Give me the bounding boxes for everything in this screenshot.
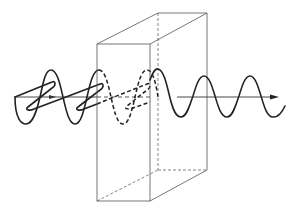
- propagation-axis: [15, 95, 150, 99]
- diagram-canvas: [0, 0, 293, 213]
- crystal-front-face: [97, 44, 150, 201]
- polarization-diagram: [0, 0, 293, 213]
- transmitted-wave: [150, 69, 285, 117]
- arrowhead-icon: [270, 95, 279, 100]
- axis-mid-arrowhead-icon: [49, 95, 56, 99]
- wave-inside-crystal-oblique: [97, 84, 150, 109]
